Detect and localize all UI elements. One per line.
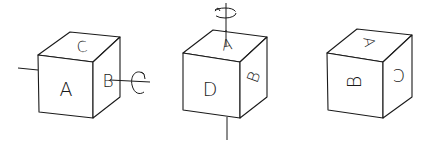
cube-2: A D B <box>183 3 267 140</box>
cube-1-front-label: A <box>60 78 73 100</box>
cube-2-front-label: D <box>203 78 218 100</box>
cube-3: A B C <box>327 29 412 118</box>
cube-1-right-label: B <box>102 71 113 91</box>
rotation-arrow-icon <box>214 8 236 18</box>
cube-3-front-label: B <box>343 76 365 88</box>
cube-rotation-diagram: C A B A D B A B <box>0 0 430 143</box>
cube-1: C A B <box>18 32 150 118</box>
rotation-arrow-icon <box>132 72 145 94</box>
cube-3-right-label: C <box>393 65 405 85</box>
horizontal-axis-left <box>18 68 38 70</box>
